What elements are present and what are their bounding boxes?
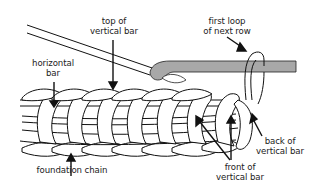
- crochet-hook: [150, 61, 296, 83]
- label-top-of-vertical-bar: top of vertical bar: [84, 17, 144, 36]
- label-line: foundation chain: [34, 166, 110, 176]
- label-line: bar: [28, 69, 78, 79]
- label-foundation-chain: foundation chain: [34, 166, 110, 176]
- label-front-of-vertical-bar: front of vertical bar: [210, 163, 270, 182]
- label-line: vertical bar: [84, 27, 144, 37]
- label-line: vertical bar: [210, 173, 270, 183]
- stitch-tops: [22, 89, 212, 101]
- label-horizontal-bar: horizontal bar: [28, 59, 78, 78]
- label-line: vertical bar: [250, 147, 310, 157]
- label-line: of next row: [195, 27, 259, 37]
- label-first-loop-of-next-row: first loop of next row: [195, 17, 259, 36]
- label-back-of-vertical-bar: back of vertical bar: [250, 137, 310, 156]
- working-loop: [245, 52, 264, 104]
